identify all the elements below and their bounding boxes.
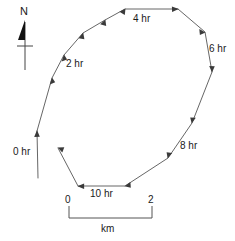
- scale-bar-left-label: 0: [65, 195, 71, 205]
- compass-arrowhead-icon: [18, 20, 25, 40]
- track-label-2hr: 2 hr: [66, 59, 83, 69]
- storm-track-figure: N 0 hr 2 hr 4 hr 6 hr 8 hr 10 hr 0 2 km: [0, 0, 235, 241]
- compass-north-label: N: [20, 6, 28, 17]
- scale-bar-right-label: 2: [148, 195, 154, 205]
- track-drawing: [0, 0, 235, 241]
- scale-bar-unit-label: km: [101, 224, 114, 234]
- track-label-4hr: 4 hr: [133, 14, 150, 24]
- track-label-8hr: 8 hr: [180, 141, 197, 151]
- track-arrowheads: [34, 6, 215, 189]
- track-label-0hr: 0 hr: [13, 147, 30, 157]
- scale-bar-bracket: [69, 206, 152, 218]
- track-label-10hr: 10 hr: [90, 189, 113, 199]
- track-label-6hr: 6 hr: [209, 44, 226, 54]
- track-path: [37, 9, 212, 186]
